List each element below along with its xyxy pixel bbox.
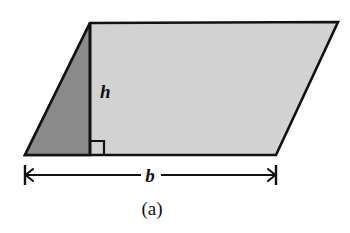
parallelogram-figure: h b (a): [0, 0, 350, 233]
base-label: b: [145, 165, 155, 186]
height-label: h: [100, 81, 111, 102]
figure-container: h b (a): [0, 0, 350, 233]
figure-caption: (a): [141, 198, 162, 220]
